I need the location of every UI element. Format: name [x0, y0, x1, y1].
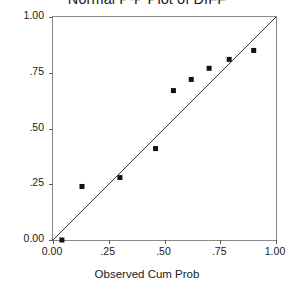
x-axis-tick-label: 0.00: [34, 246, 70, 257]
x-axis-title: Observed Cum Prob: [0, 268, 294, 280]
y-axis-tick: [49, 129, 53, 130]
x-axis-tick-label: .50: [146, 246, 182, 257]
plot-inner: [53, 17, 276, 240]
x-axis-tick: [109, 240, 110, 244]
data-point-marker: [59, 238, 64, 243]
data-point-marker: [227, 57, 232, 62]
x-axis-tick: [220, 240, 221, 244]
chart-title: Normal P-P Plot of DIFF: [0, 0, 294, 8]
y-axis-tick-label: .25: [0, 177, 44, 188]
y-axis-tick-label: .75: [0, 66, 44, 77]
data-point-marker: [79, 184, 84, 189]
y-axis-tick-label: 1.00: [0, 10, 44, 21]
y-axis-tick: [49, 73, 53, 74]
data-point-marker: [207, 66, 212, 71]
plot-area: [52, 16, 277, 241]
data-points-layer: [53, 17, 276, 240]
y-axis-tick-label: 0.00: [0, 233, 44, 244]
x-axis-tick: [53, 240, 54, 244]
x-axis-tick-label: 1.00: [257, 246, 293, 257]
data-point-marker: [153, 146, 158, 151]
data-point-marker: [117, 175, 122, 180]
x-axis-tick-label: .75: [201, 246, 237, 257]
y-axis-tick: [49, 17, 53, 18]
x-axis-tick: [165, 240, 166, 244]
y-axis-tick-label: .50: [0, 122, 44, 133]
normal-pp-plot-figure: Normal P-P Plot of DIFF Expected Cum Pro…: [0, 0, 294, 293]
data-point-marker: [251, 48, 256, 53]
y-axis-tick: [49, 184, 53, 185]
x-axis-tick-label: .25: [90, 246, 126, 257]
data-point-marker: [171, 88, 176, 93]
x-axis-tick: [276, 240, 277, 244]
data-point-marker: [189, 77, 194, 82]
